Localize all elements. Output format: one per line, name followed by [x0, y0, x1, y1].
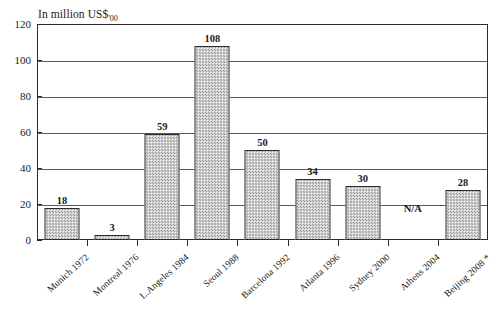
y-axis-tick	[37, 96, 42, 97]
y-axis-tick-label: 100	[15, 54, 32, 66]
bar[interactable]	[345, 186, 380, 240]
y-axis-tick	[37, 24, 42, 25]
y-axis-tick-label: 120	[15, 18, 32, 30]
y-axis-tick	[37, 60, 42, 61]
bar-slot: 59	[137, 24, 187, 240]
y-axis-tick	[37, 204, 42, 205]
x-axis-category-label: Montreal 1976	[91, 252, 140, 298]
x-axis-category-label: L.Angeles 1984	[138, 252, 191, 301]
bar-value-label: 108	[205, 33, 221, 44]
bar[interactable]	[445, 190, 480, 240]
y-axis-tick	[37, 132, 42, 133]
bar[interactable]	[295, 179, 330, 240]
x-axis-tick	[87, 240, 88, 246]
x-axis-category-label: Athens 2004	[398, 252, 441, 292]
y-axis-tick-label: 20	[20, 198, 31, 210]
axis-unit-caption-subscript: '00	[108, 14, 117, 23]
bar-slot: 3	[87, 24, 137, 240]
x-axis-tick	[438, 240, 439, 246]
bar-value-label: 59	[157, 121, 168, 132]
x-axis-tick	[237, 240, 238, 246]
y-axis-tick-label: 80	[20, 90, 31, 102]
y-axis-tick-label: 60	[20, 126, 31, 138]
x-axis-category-label: Atlanta 1996	[297, 252, 341, 293]
bar-slot: 34	[288, 24, 338, 240]
bar-chart: In million US$'00 020406080100120 183591…	[0, 0, 504, 319]
bar-slot: 30	[338, 24, 388, 240]
x-axis-tick	[288, 240, 289, 246]
bar-value-label: 28	[458, 177, 469, 188]
bar-value-label: 34	[307, 166, 318, 177]
bar-slot: 18	[37, 24, 87, 240]
x-axis-labels: Munich 1972Montreal 1976L.Angeles 1984Se…	[0, 240, 504, 319]
bar[interactable]	[145, 134, 180, 240]
x-axis-tick	[338, 240, 339, 246]
bar-value-label: 3	[110, 222, 115, 233]
x-axis-category-label: Munich 1972	[45, 252, 90, 294]
bar-value-label: 30	[357, 173, 368, 184]
bars-layer: 18359108503430N/A28	[37, 24, 488, 240]
x-axis-category-label: Barcelona 1992	[239, 252, 291, 300]
x-axis-category-label: Sydney 2000	[347, 252, 392, 294]
bar-missing-label: N/A	[404, 203, 422, 214]
bar[interactable]	[45, 208, 80, 240]
axis-unit-caption: In million US$'00	[38, 8, 118, 23]
bar-value-label: 50	[257, 137, 268, 148]
x-axis-category-label: Seoul 1988	[202, 252, 241, 289]
bar-slot: 50	[237, 24, 287, 240]
bar-value-label: 18	[57, 195, 68, 206]
bar-slot: N/A	[388, 24, 438, 240]
x-axis-tick	[187, 240, 188, 246]
bar[interactable]	[245, 150, 280, 240]
x-axis-tick	[388, 240, 389, 246]
axis-unit-caption-text: In million US$	[38, 8, 108, 20]
y-axis-labels: 020406080100120	[0, 24, 31, 240]
bar-slot: 108	[187, 24, 237, 240]
x-axis-category-label: Beijing 2008 *	[442, 252, 493, 299]
x-axis-tick	[137, 240, 138, 246]
bar-slot: 28	[438, 24, 488, 240]
x-axis-label-text: Beijing 2008	[442, 256, 488, 299]
bar[interactable]	[195, 46, 230, 240]
y-axis-tick	[37, 240, 42, 241]
y-axis-tick-label: 40	[20, 162, 31, 174]
y-axis-tick	[37, 168, 42, 169]
